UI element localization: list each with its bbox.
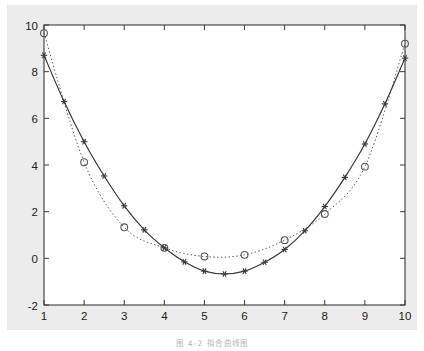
y-tick-label: 2 [32,206,38,218]
x-tick-label: 5 [201,310,207,322]
plot-background [44,25,405,305]
chart-svg: 12345678910 -20246810 [0,0,424,351]
plot-canvas [44,25,405,305]
y-tick-label: 10 [25,20,38,32]
x-tick-label: 7 [281,310,287,322]
x-tick-label: 8 [322,310,328,322]
y-tick-label: 6 [32,113,38,125]
x-tick-label: 1 [41,310,47,322]
x-tick-label: 10 [399,310,412,322]
y-tick-labels: -20246810 [25,20,38,312]
x-tick-labels: 12345678910 [41,310,412,322]
figure-page: 12345678910 -20246810 图 4-2 拟合曲线图 [0,0,424,351]
y-tick-label: 4 [32,160,39,172]
plot-area: 12345678910 -20246810 [0,0,424,351]
x-tick-label: 4 [161,310,168,322]
x-tick-label: 3 [121,310,127,322]
figure-caption: 图 4-2 拟合曲线图 [0,337,424,348]
y-tick-label: 8 [32,66,38,78]
y-tick-label: 0 [32,253,38,265]
x-tick-label: 9 [362,310,368,322]
y-tick-label: -2 [28,300,38,312]
x-tick-label: 2 [81,310,87,322]
x-tick-label: 6 [241,310,247,322]
